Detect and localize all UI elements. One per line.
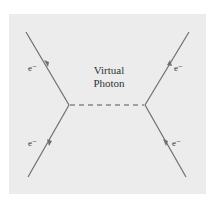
electron-label-top-left: e⁻ [28,63,37,73]
virtual-photon-label: Virtual Photon [84,64,134,90]
virtual-photon-label-line1: Virtual [84,64,134,77]
electron-label-top-right: e⁻ [174,63,183,73]
virtual-photon-label-line2: Photon [84,77,134,90]
electron-label-bottom-right: e⁻ [172,138,181,148]
electron-label-bottom-left: e⁻ [28,138,37,148]
feynman-diagram [0,0,216,201]
